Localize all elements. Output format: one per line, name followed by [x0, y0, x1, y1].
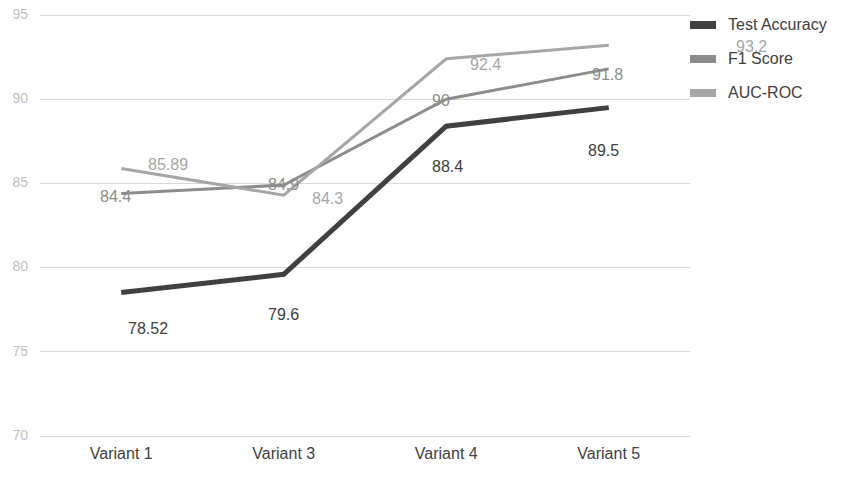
- y-axis-tick-label: 70: [12, 427, 28, 443]
- data-label: 78.52: [128, 320, 168, 337]
- series-lines: [121, 45, 609, 292]
- data-label: 89.5: [588, 142, 619, 159]
- y-axis-tick-label: 90: [12, 90, 28, 106]
- legend-swatch-f1-score: [690, 55, 716, 63]
- legend-swatch-test-accuracy: [690, 21, 716, 29]
- data-label: 90: [432, 92, 450, 109]
- legend-item-auc-roc[interactable]: AUC-ROC: [690, 76, 856, 110]
- data-label: 91.8: [592, 66, 623, 83]
- x-axis-tick-label: Variant 4: [415, 445, 478, 462]
- y-axis-tick-label: 75: [12, 343, 28, 359]
- data-labels: 78.5279.688.489.584.484.99091.885.8984.3…: [100, 38, 767, 337]
- series-line-test-accuracy: [121, 108, 609, 293]
- legend-label-test-accuracy: Test Accuracy: [728, 16, 827, 34]
- series-line-f1-score: [121, 69, 609, 194]
- data-label: 92.4: [470, 56, 501, 73]
- line-chart: 707580859095 78.5279.688.489.584.484.990…: [0, 0, 866, 482]
- legend-swatch-auc-roc: [690, 89, 716, 97]
- y-axis-tick-label: 85: [12, 174, 28, 190]
- series-line-auc-roc: [121, 45, 609, 195]
- x-axis-tick-label: Variant 1: [90, 445, 153, 462]
- legend-item-test-accuracy[interactable]: Test Accuracy: [690, 8, 856, 42]
- y-axis-tick-label: 80: [12, 258, 28, 274]
- data-label: 85.89: [148, 156, 188, 173]
- legend-item-f1-score[interactable]: F1 Score: [690, 42, 856, 76]
- y-axis-tick-labels: 707580859095: [12, 6, 28, 443]
- x-axis-tick-labels: Variant 1Variant 3Variant 4Variant 5: [90, 445, 640, 462]
- chart-legend: Test Accuracy F1 Score AUC-ROC: [690, 8, 856, 110]
- data-label: 79.6: [268, 306, 299, 323]
- data-label: 84.3: [312, 190, 343, 207]
- y-axis-tick-label: 95: [12, 6, 28, 22]
- legend-label-auc-roc: AUC-ROC: [728, 84, 803, 102]
- x-axis-tick-label: Variant 5: [577, 445, 640, 462]
- data-label: 88.4: [432, 158, 463, 175]
- legend-label-f1-score: F1 Score: [728, 50, 793, 68]
- data-label: 84.9: [268, 176, 299, 193]
- x-axis-tick-label: Variant 3: [252, 445, 315, 462]
- data-label: 84.4: [100, 188, 131, 205]
